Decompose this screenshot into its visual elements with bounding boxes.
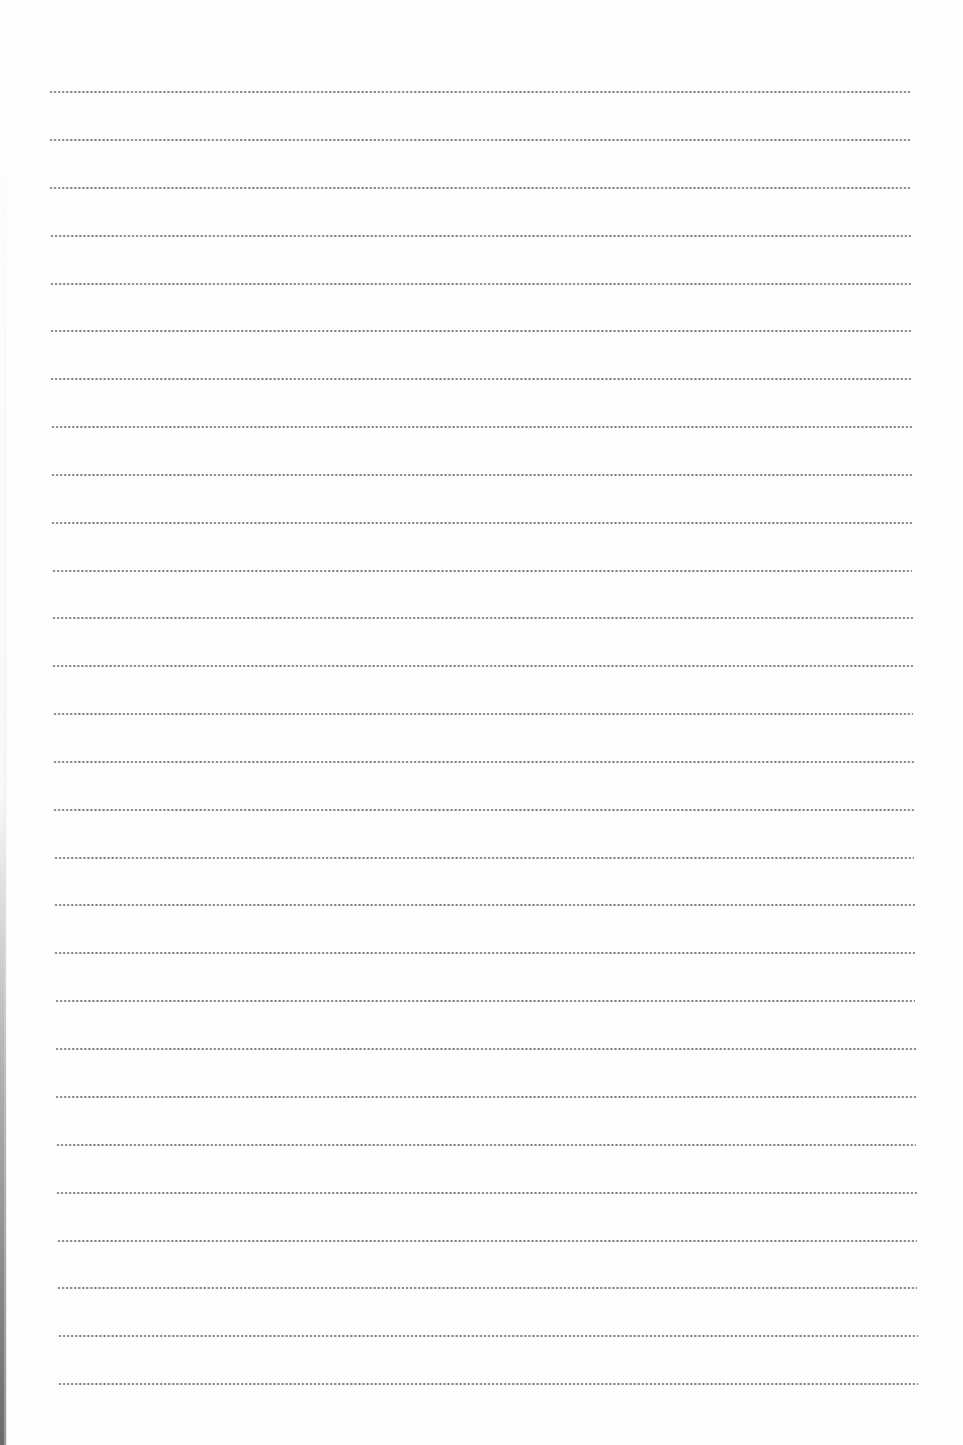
dotted-rule-line: [54, 904, 915, 906]
dotted-rule-line: [53, 761, 914, 763]
dotted-rule-line: [56, 1144, 916, 1146]
dotted-rule-line: [53, 809, 914, 811]
dotted-rule-line: [49, 91, 910, 93]
dotted-rule-line: [49, 187, 910, 189]
dotted-rule-line: [56, 1192, 917, 1194]
dotted-rule-line: [53, 713, 913, 715]
dotted-rule-line: [50, 283, 911, 285]
dotted-rule-line: [55, 1096, 916, 1098]
dotted-rule-line: [54, 857, 914, 859]
dotted-rule-line: [57, 1240, 917, 1242]
dotted-rule-line: [54, 952, 915, 954]
dotted-rule-line: [51, 474, 912, 476]
dotted-rule-line: [57, 1287, 917, 1289]
dotted-rule-line: [55, 1048, 916, 1050]
dotted-rule-line: [50, 330, 911, 332]
dotted-rule-line: [52, 665, 913, 667]
dotted-rule-line: [50, 235, 911, 237]
dotted-rule-line: [49, 139, 910, 141]
dotted-rule-line: [51, 426, 912, 428]
dotted-rule-line: [58, 1383, 918, 1385]
dotted-rule-line: [52, 617, 913, 619]
dotted-rule-line: [52, 570, 912, 572]
dotted-rule-line: [51, 522, 912, 524]
dotted-rule-line: [50, 378, 911, 380]
dotted-rule-line: [58, 1335, 918, 1337]
ruled-lines: [0, 0, 963, 1445]
dotted-rule-line: [55, 1000, 915, 1002]
ruled-page: [0, 0, 963, 1445]
